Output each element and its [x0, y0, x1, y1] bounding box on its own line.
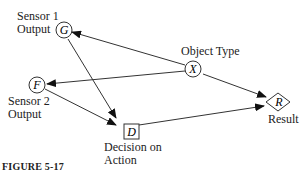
figure-caption: FIGURE 5-17: [2, 161, 64, 172]
node-f: F: [29, 77, 45, 93]
edge-x-to-f: [47, 71, 185, 84]
node-g-label-line2: Output: [17, 23, 50, 36]
node-d-label-line2: Action: [104, 154, 137, 167]
node-x: X: [185, 61, 201, 77]
node-g-letter: G: [60, 23, 69, 37]
node-d: D: [124, 124, 139, 139]
edge-x-to-g: [72, 32, 185, 65]
node-d-letter: D: [126, 125, 136, 139]
edge-d-to-r: [139, 106, 264, 125]
node-r: R: [266, 93, 290, 111]
node-f-letter: F: [32, 78, 41, 92]
node-x-letter: X: [188, 62, 197, 76]
edge-f-to-d: [45, 89, 116, 125]
node-f-label-line2: Output: [8, 108, 41, 121]
node-r-letter: R: [274, 95, 283, 109]
node-x-label: Object Type: [181, 45, 240, 58]
edge-x-to-r: [203, 74, 266, 97]
node-g: G: [56, 22, 72, 38]
node-r-label: Result: [268, 113, 299, 126]
